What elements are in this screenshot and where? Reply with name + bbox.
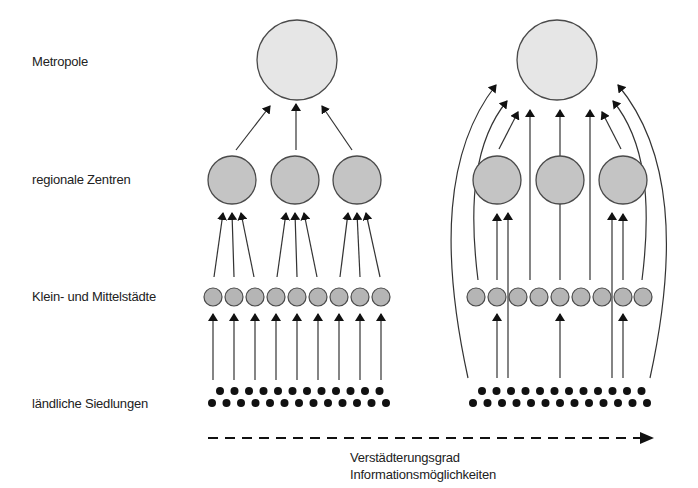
rural-settlement-dot	[551, 387, 559, 395]
regional-center-node	[333, 156, 381, 204]
axis-caption: Verstädterungsgrad Informationsmöglichke…	[350, 449, 496, 483]
rural-settlement-dot	[332, 387, 340, 395]
rural-settlement-dot	[536, 387, 544, 395]
rural-settlement-dot	[542, 399, 550, 407]
rural-settlement-dot	[252, 399, 260, 407]
rural-settlement-dot	[274, 387, 282, 395]
urban-hierarchy-diagram	[0, 0, 698, 488]
rural-settlement-dot	[609, 387, 617, 395]
rural-settlement-dot	[469, 399, 477, 407]
small-city-node	[330, 288, 348, 306]
rural-settlement-dot	[571, 399, 579, 407]
rural-settlement-dot	[513, 399, 521, 407]
rural-settlement-dot	[556, 399, 564, 407]
networked-model	[451, 20, 666, 407]
regional-center-node	[536, 156, 584, 204]
hierarchical-model	[204, 20, 390, 407]
regional-center-node	[599, 156, 647, 204]
rural-settlement-dot	[484, 399, 492, 407]
rural-settlement-dot	[237, 399, 245, 407]
regional-center-node	[208, 156, 256, 204]
rural-settlement-dot	[339, 399, 347, 407]
small-city-node	[204, 288, 222, 306]
rural-settlement-dot	[507, 387, 515, 395]
small-city-node	[225, 288, 243, 306]
rural-settlement-dot	[585, 399, 593, 407]
small-city-node	[530, 288, 548, 306]
rural-settlement-dot	[600, 399, 608, 407]
rural-settlement-dot	[565, 387, 573, 395]
rural-settlement-dot	[260, 387, 268, 395]
rural-settlement-dot	[245, 387, 253, 395]
small-city-node	[488, 288, 506, 306]
small-city-node	[467, 288, 485, 306]
rural-settlement-dot	[522, 387, 530, 395]
rural-settlement-dot	[216, 387, 224, 395]
small-city-node	[634, 288, 652, 306]
rural-settlement-dot	[223, 399, 231, 407]
rural-settlement-dot	[382, 399, 390, 407]
small-city-node	[267, 288, 285, 306]
small-city-node	[351, 288, 369, 306]
rural-settlement-dot	[376, 387, 384, 395]
caption-information: Informationsmöglichkeiten	[350, 466, 496, 483]
rural-settlement-dot	[368, 399, 376, 407]
rural-settlement-dot	[303, 387, 311, 395]
rural-settlement-dot	[623, 387, 631, 395]
small-city-node	[593, 288, 611, 306]
rural-settlement-dot	[629, 399, 637, 407]
rural-settlement-dot	[347, 387, 355, 395]
regional-center-node	[473, 156, 521, 204]
small-city-node	[309, 288, 327, 306]
rural-settlement-dot	[527, 399, 535, 407]
rural-settlement-dot	[231, 387, 239, 395]
metropole-node	[517, 20, 597, 100]
rural-settlement-dot	[353, 399, 361, 407]
rural-settlement-dot	[493, 387, 501, 395]
small-city-node	[614, 288, 632, 306]
small-city-node	[572, 288, 590, 306]
rural-settlement-dot	[289, 387, 297, 395]
rural-settlement-dot	[594, 387, 602, 395]
rural-settlement-dot	[318, 387, 326, 395]
caption-urbanization: Verstädterungsgrad	[350, 449, 496, 466]
rural-settlement-dot	[614, 399, 622, 407]
rural-settlement-dot	[266, 399, 274, 407]
rural-settlement-dot	[208, 399, 216, 407]
rural-settlement-dot	[361, 387, 369, 395]
small-city-node	[246, 288, 264, 306]
small-city-node	[551, 288, 569, 306]
rural-settlement-dot	[580, 387, 588, 395]
small-city-node	[288, 288, 306, 306]
rural-settlement-dot	[295, 399, 303, 407]
small-city-node	[372, 288, 390, 306]
metropole-node	[257, 20, 337, 100]
small-city-node	[509, 288, 527, 306]
rural-settlement-dot	[478, 387, 486, 395]
rural-settlement-dot	[498, 399, 506, 407]
rural-settlement-dot	[310, 399, 318, 407]
regional-center-node	[271, 156, 319, 204]
urbanization-axis-arrow	[208, 432, 654, 444]
rural-settlement-dot	[281, 399, 289, 407]
rural-settlement-dot	[638, 387, 646, 395]
rural-settlement-dot	[324, 399, 332, 407]
rural-settlement-dot	[643, 399, 651, 407]
